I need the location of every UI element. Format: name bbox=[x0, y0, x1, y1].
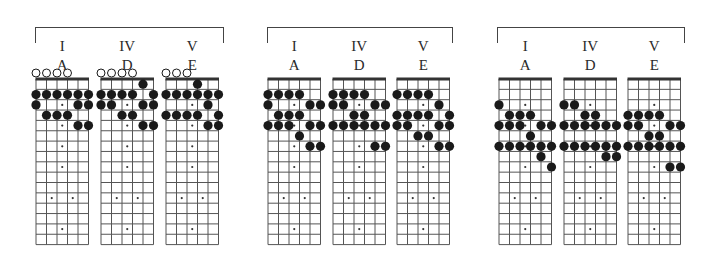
scale-note-dot bbox=[526, 131, 535, 140]
chord-degree-label: V bbox=[164, 39, 220, 54]
scale-note-dot bbox=[559, 142, 568, 151]
inlay-marker bbox=[51, 197, 53, 199]
scale-note-dot bbox=[559, 100, 568, 109]
scale-note-dot bbox=[623, 111, 632, 120]
scale-note-dot bbox=[117, 90, 126, 99]
inlay-marker bbox=[191, 166, 193, 168]
inlay-marker bbox=[422, 228, 424, 230]
scale-note-dot bbox=[591, 111, 600, 120]
scale-note-dot bbox=[128, 90, 137, 99]
scale-note-dot bbox=[665, 162, 674, 171]
chord-degree-label: V bbox=[626, 39, 682, 54]
nut bbox=[268, 78, 322, 81]
scale-note-dot bbox=[172, 90, 181, 99]
fretboard-diagram bbox=[493, 68, 558, 251]
scale-note-dot bbox=[349, 90, 358, 99]
scale-note-dot bbox=[193, 111, 202, 120]
inlay-marker bbox=[126, 104, 128, 106]
scale-note-dot bbox=[591, 142, 600, 151]
open-string-marker bbox=[173, 69, 181, 77]
inlay-marker bbox=[524, 166, 526, 168]
inlay-marker bbox=[61, 104, 63, 106]
scale-note-dot bbox=[676, 142, 685, 151]
inlay-marker bbox=[191, 228, 193, 230]
scale-note-dot bbox=[214, 111, 223, 120]
scale-note-dot bbox=[434, 100, 443, 109]
scale-note-dot bbox=[328, 121, 337, 130]
inlay-marker bbox=[293, 228, 295, 230]
scale-note-dot bbox=[284, 121, 293, 130]
scale-note-dot bbox=[203, 100, 212, 109]
scale-note-dot bbox=[665, 142, 674, 151]
inlay-marker bbox=[61, 228, 63, 230]
scale-note-dot bbox=[403, 121, 412, 130]
fretboard-diagram bbox=[30, 68, 95, 251]
scale-note-dot bbox=[434, 142, 443, 151]
inlay-marker bbox=[358, 145, 360, 147]
inlay-marker bbox=[524, 104, 526, 106]
scale-note-dot bbox=[570, 100, 579, 109]
inlay-marker bbox=[589, 228, 591, 230]
chord-degree-label: I bbox=[266, 39, 322, 54]
inlay-marker bbox=[589, 104, 591, 106]
scale-note-dot bbox=[214, 90, 223, 99]
scale-note-dot bbox=[149, 121, 158, 130]
open-string-marker bbox=[97, 69, 105, 77]
scale-note-dot bbox=[349, 111, 358, 120]
nut bbox=[333, 78, 387, 81]
scale-note-dot bbox=[515, 142, 524, 151]
scale-note-dot bbox=[623, 121, 632, 130]
scale-note-dot bbox=[434, 121, 443, 130]
inlay-marker bbox=[61, 166, 63, 168]
nut bbox=[628, 78, 682, 81]
inlay-marker bbox=[653, 228, 655, 230]
inlay-marker bbox=[535, 197, 537, 199]
scale-note-dot bbox=[360, 111, 369, 120]
inlay-marker bbox=[293, 166, 295, 168]
scale-note-dot bbox=[305, 100, 314, 109]
scale-note-dot bbox=[424, 111, 433, 120]
scale-note-dot bbox=[96, 100, 105, 109]
scale-note-dot bbox=[138, 121, 147, 130]
scale-note-dot bbox=[370, 121, 379, 130]
scale-note-dot bbox=[73, 90, 82, 99]
scale-note-dot bbox=[403, 90, 412, 99]
inlay-marker bbox=[126, 228, 128, 230]
scale-note-dot bbox=[52, 111, 61, 120]
scale-note-dot bbox=[263, 90, 272, 99]
scale-note-dot bbox=[31, 100, 40, 109]
scale-note-dot bbox=[515, 111, 524, 120]
inlay-marker bbox=[422, 166, 424, 168]
nut bbox=[499, 78, 553, 81]
chord-degree-label: I bbox=[497, 39, 553, 54]
scale-note-dot bbox=[612, 121, 621, 130]
scale-note-dot bbox=[392, 111, 401, 120]
scale-note-dot bbox=[42, 90, 51, 99]
scale-note-dot bbox=[665, 121, 674, 130]
scale-note-dot bbox=[591, 121, 600, 130]
fretboard-diagram bbox=[160, 68, 225, 251]
scale-note-dot bbox=[370, 100, 379, 109]
scale-note-dot bbox=[328, 100, 337, 109]
scale-note-dot bbox=[634, 111, 643, 120]
scale-note-dot bbox=[107, 90, 116, 99]
scale-note-dot bbox=[494, 142, 503, 151]
scale-note-dot bbox=[392, 90, 401, 99]
scale-note-dot bbox=[547, 121, 556, 130]
scale-note-dot bbox=[84, 100, 93, 109]
fretboard-diagram bbox=[95, 68, 160, 251]
inlay-marker bbox=[283, 197, 285, 199]
inlay-marker bbox=[116, 197, 118, 199]
scale-note-dot bbox=[263, 100, 272, 109]
inlay-marker bbox=[653, 104, 655, 106]
scale-note-dot bbox=[392, 121, 401, 130]
scale-note-dot bbox=[536, 121, 545, 130]
scale-note-dot bbox=[284, 90, 293, 99]
fretboard-diagram bbox=[262, 68, 327, 251]
scale-note-dot bbox=[547, 162, 556, 171]
chord-degree-label: I bbox=[34, 39, 90, 54]
scale-note-dot bbox=[413, 111, 422, 120]
inlay-marker bbox=[358, 228, 360, 230]
scale-note-dot bbox=[413, 131, 422, 140]
scale-note-dot bbox=[360, 90, 369, 99]
